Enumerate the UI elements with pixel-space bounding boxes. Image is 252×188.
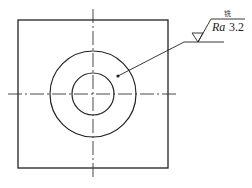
surface-roughness-icon [192, 33, 203, 42]
technical-drawing: 铣 Ra 3.2 [0, 0, 252, 188]
roughness-parameter: Ra [211, 20, 225, 34]
process-label: 铣 [224, 9, 231, 18]
leader-line [118, 42, 224, 76]
roughness-value: 3.2 [229, 20, 244, 34]
